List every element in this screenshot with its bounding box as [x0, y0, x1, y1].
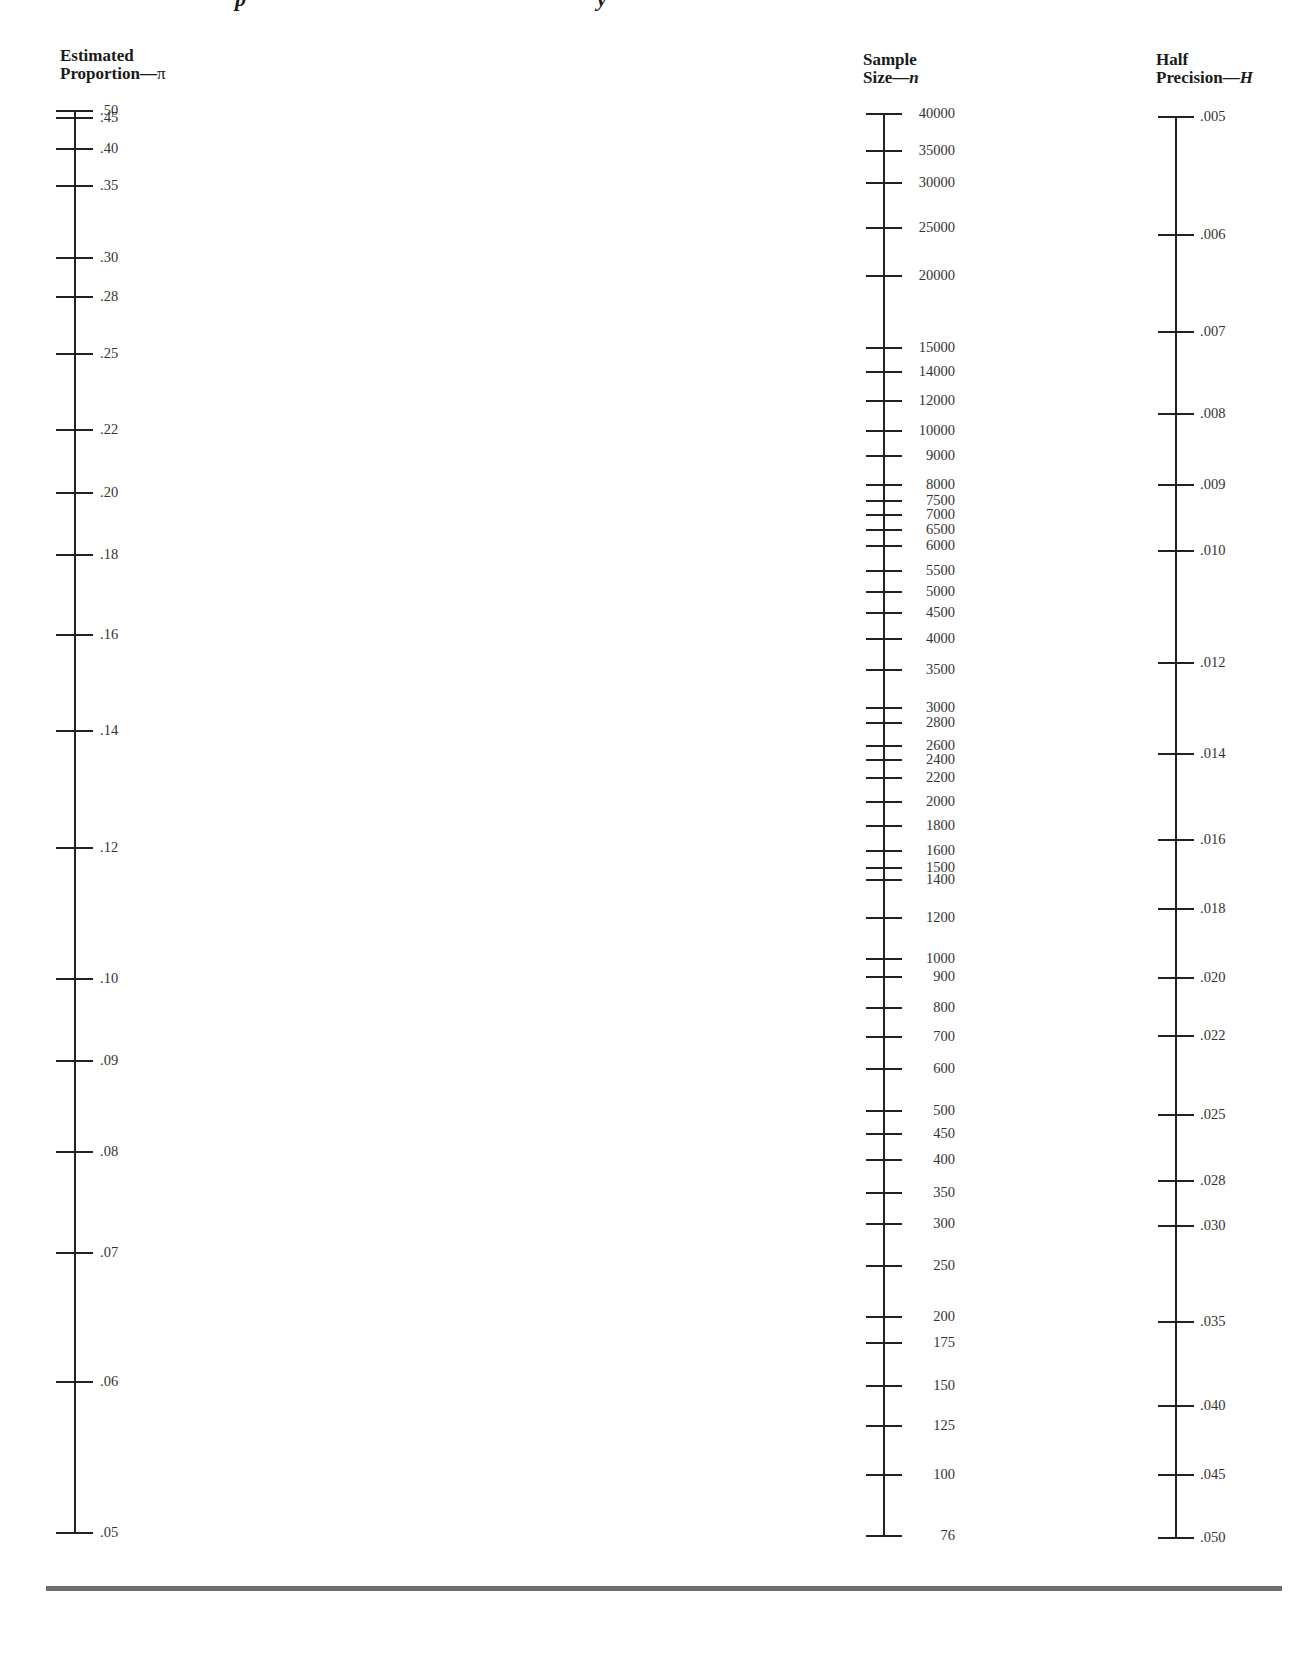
- sample-size-axis-header: Sample Size—n: [863, 51, 919, 87]
- half-precision-tick: [1158, 1321, 1194, 1323]
- proportion-tick: [56, 185, 93, 187]
- sample-size-tick-label: 2200: [926, 770, 955, 784]
- h-symbol: H: [1240, 68, 1253, 87]
- sample-size-tick-label: 3500: [926, 662, 955, 676]
- proportion-tick-label: .45: [100, 110, 118, 124]
- title-fragment-left: p: [235, 0, 246, 12]
- sample-size-tick: [866, 850, 902, 852]
- half-precision-tick-label: .016: [1200, 832, 1225, 846]
- proportion-tick-label: .09: [100, 1053, 118, 1067]
- proportion-tick: [56, 1060, 93, 1062]
- sample-size-tick-label: 175: [933, 1335, 955, 1349]
- sample-size-tick: [866, 500, 902, 502]
- sample-size-tick: [866, 1535, 902, 1537]
- half-precision-tick: [1158, 234, 1194, 236]
- sample-size-header-line1: Sample: [863, 51, 919, 69]
- sample-size-tick-label: 25000: [919, 220, 955, 234]
- sample-size-tick-label: 1800: [926, 818, 955, 832]
- proportion-tick: [56, 492, 93, 494]
- half-precision-tick: [1158, 331, 1194, 333]
- proportion-tick: [56, 1381, 93, 1383]
- sample-size-tick-label: 125: [933, 1418, 955, 1432]
- sample-size-tick-label: 20000: [919, 268, 955, 282]
- proportion-tick: [56, 1532, 93, 1534]
- sample-size-tick-label: 15000: [919, 340, 955, 354]
- bottom-rule-divider: [46, 1586, 1282, 1591]
- sample-size-tick: [866, 113, 902, 115]
- sample-size-tick: [866, 275, 902, 277]
- proportion-tick-label: .25: [100, 346, 118, 360]
- sample-size-tick: [866, 801, 902, 803]
- half-precision-tick: [1158, 839, 1194, 841]
- sample-size-tick: [866, 638, 902, 640]
- proportion-tick: [56, 634, 93, 636]
- sample-size-tick: [866, 227, 902, 229]
- sample-size-tick: [866, 545, 902, 547]
- sample-size-tick: [866, 958, 902, 960]
- half-precision-tick-label: .040: [1200, 1398, 1225, 1412]
- sample-size-tick: [866, 1265, 902, 1267]
- page-title-fragment: p y: [0, 0, 1302, 6]
- n-symbol: n: [909, 68, 918, 87]
- sample-size-tick: [866, 400, 902, 402]
- sample-size-tick-label: 8000: [926, 477, 955, 491]
- sample-size-header-line2: Size—: [863, 68, 909, 87]
- half-precision-tick-label: .009: [1200, 477, 1225, 491]
- sample-size-tick-label: 6000: [926, 538, 955, 552]
- proportion-tick-label: .22: [100, 422, 118, 436]
- sample-size-tick: [866, 182, 902, 184]
- proportion-tick: [56, 117, 93, 119]
- sample-size-tick: [866, 1316, 902, 1318]
- sample-size-tick-label: 150: [933, 1378, 955, 1392]
- proportion-tick: [56, 1151, 93, 1153]
- sample-size-tick-label: 1600: [926, 843, 955, 857]
- sample-size-tick-label: 450: [933, 1126, 955, 1140]
- half-precision-tick: [1158, 1537, 1194, 1539]
- sample-size-tick-label: 12000: [919, 393, 955, 407]
- half-precision-axis-header: Half Precision—H: [1156, 51, 1253, 87]
- proportion-tick: [56, 554, 93, 556]
- half-precision-tick-label: .045: [1200, 1467, 1225, 1481]
- proportion-header-line1: Estimated: [60, 47, 166, 65]
- sample-size-tick-label: 30000: [919, 175, 955, 189]
- half-precision-tick: [1158, 413, 1194, 415]
- proportion-tick: [56, 110, 93, 112]
- proportion-tick: [56, 148, 93, 150]
- sample-size-tick: [866, 1192, 902, 1194]
- sample-size-tick: [866, 1474, 902, 1476]
- proportion-tick-label: .05: [100, 1525, 118, 1539]
- sample-size-tick-label: 1400: [926, 872, 955, 886]
- half-precision-tick-label: .012: [1200, 655, 1225, 669]
- sample-size-tick: [866, 1036, 902, 1038]
- half-precision-tick: [1158, 550, 1194, 552]
- proportion-tick-label: .07: [100, 1245, 118, 1259]
- sample-size-tick: [866, 612, 902, 614]
- half-precision-tick: [1158, 1035, 1194, 1037]
- sample-size-tick: [866, 1068, 902, 1070]
- sample-size-tick: [866, 976, 902, 978]
- half-precision-tick-label: .035: [1200, 1314, 1225, 1328]
- sample-size-tick-label: 40000: [919, 106, 955, 120]
- proportion-tick: [56, 1252, 93, 1254]
- half-precision-tick: [1158, 1474, 1194, 1476]
- half-precision-tick-label: .014: [1200, 746, 1225, 760]
- proportion-tick: [56, 296, 93, 298]
- proportion-tick: [56, 847, 93, 849]
- sample-size-tick: [866, 484, 902, 486]
- half-precision-tick: [1158, 1405, 1194, 1407]
- proportion-tick-label: .14: [100, 723, 118, 737]
- half-precision-tick: [1158, 977, 1194, 979]
- sample-size-tick-label: 900: [933, 969, 955, 983]
- half-precision-tick-label: .030: [1200, 1218, 1225, 1232]
- sample-size-tick: [866, 570, 902, 572]
- sample-size-tick-label: 300: [933, 1216, 955, 1230]
- sample-size-tick: [866, 1342, 902, 1344]
- half-precision-axis-line: [1175, 117, 1177, 1538]
- half-precision-tick: [1158, 484, 1194, 486]
- sample-size-tick: [866, 722, 902, 724]
- half-precision-header-line2: Precision—: [1156, 68, 1240, 87]
- half-precision-tick-label: .010: [1200, 543, 1225, 557]
- proportion-tick-label: .35: [100, 178, 118, 192]
- half-precision-tick-label: .007: [1200, 324, 1225, 338]
- half-precision-header-line1: Half: [1156, 51, 1253, 69]
